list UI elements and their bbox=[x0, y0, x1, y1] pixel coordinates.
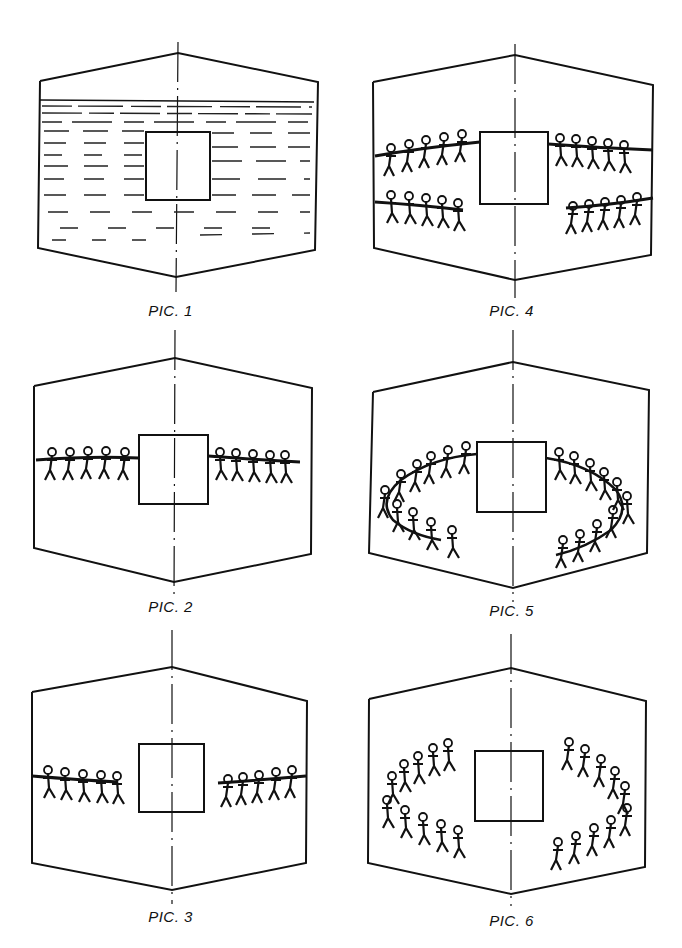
pic-3-drawing bbox=[0, 630, 341, 948]
panel-pic-2: PIC. 2 bbox=[0, 330, 341, 630]
pic-2-drawing bbox=[0, 330, 341, 630]
panel-pic-5: PIC. 5 bbox=[341, 330, 682, 630]
pic-6-drawing bbox=[341, 630, 682, 948]
stick-figures bbox=[45, 447, 292, 483]
pic-5-drawing bbox=[341, 330, 682, 630]
pic-1-drawing bbox=[0, 30, 341, 330]
caption-pic-4: PIC. 4 bbox=[341, 302, 682, 319]
stick-figures bbox=[43, 766, 297, 807]
stick-figures bbox=[378, 442, 634, 568]
panel-pic-4: PIC. 4 bbox=[341, 30, 682, 330]
panel-pic-6: PIC. 6 bbox=[341, 630, 682, 948]
caption-pic-3: PIC. 3 bbox=[0, 908, 341, 925]
caption-pic-1: PIC. 1 bbox=[0, 302, 341, 319]
pic-4-drawing bbox=[341, 30, 682, 330]
panel-pic-3: PIC. 3 bbox=[0, 630, 341, 948]
stick-figures bbox=[384, 130, 642, 234]
caption-pic-5: PIC. 5 bbox=[341, 602, 682, 619]
figure-groups bbox=[375, 142, 653, 210]
panel-pic-1: PIC. 1 bbox=[0, 30, 341, 330]
caption-pic-2: PIC. 2 bbox=[0, 598, 341, 615]
caption-pic-6: PIC. 6 bbox=[341, 912, 682, 929]
stick-figures bbox=[382, 738, 632, 870]
